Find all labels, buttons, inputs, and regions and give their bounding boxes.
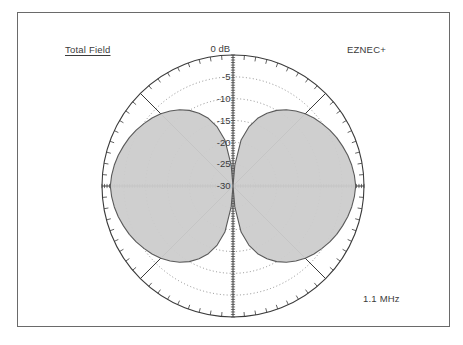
scale-label-20db: -20	[217, 137, 231, 148]
screenshot-root: 0 dB-5-10-15-20-25-30 Total Field EZNEC+…	[0, 0, 463, 345]
frequency-label: 1.1 MHz	[363, 294, 400, 304]
plot-frame: 0 dB-5-10-15-20-25-30 Total Field EZNEC+…	[17, 12, 450, 327]
polar-pattern-svg: 0 dB-5-10-15-20-25-30	[18, 13, 451, 328]
scale-label-10db: -10	[217, 93, 231, 104]
scale-label-25db: -25	[217, 158, 231, 169]
scale-label-15db: -15	[217, 115, 231, 126]
polar-plot-area: 0 dB-5-10-15-20-25-30 Total Field EZNEC+…	[18, 13, 451, 328]
scale-label-5db: -5	[222, 71, 230, 82]
brand-label: EZNEC+	[347, 45, 386, 55]
scale-label-30db: -30	[217, 180, 231, 191]
scale-label-0db: 0 dB	[210, 43, 230, 54]
plot-title-label: Total Field	[65, 45, 111, 55]
